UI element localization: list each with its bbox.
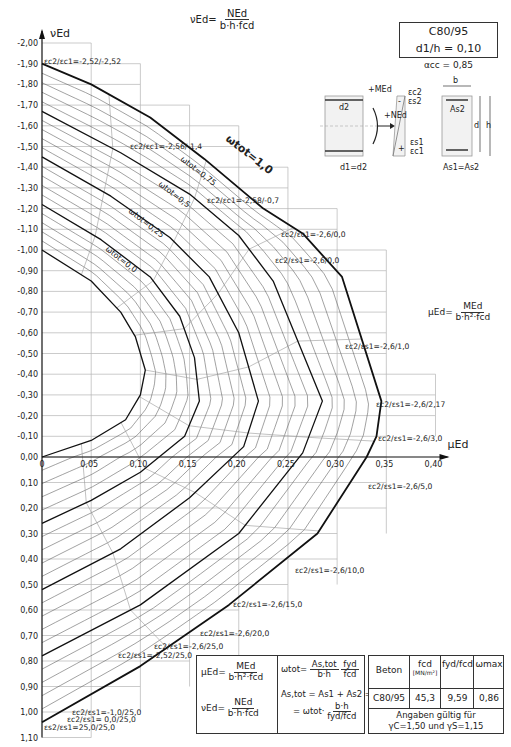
legend-astot-frac: b·hfyd/fcd: [327, 702, 356, 722]
svg-text:0,30: 0,30: [20, 530, 38, 539]
legend-mu: μEd= MEdb·h²·fcd: [201, 662, 263, 683]
svg-text:-0,20: -0,20: [17, 412, 38, 421]
svg-text:-1,80: -1,80: [17, 80, 38, 89]
svg-text:-1,40: -1,40: [17, 163, 38, 172]
svg-text:μEd: μEd: [448, 438, 469, 451]
th-fcd-label: fcd: [410, 659, 440, 669]
svg-text:0: 0: [39, 460, 44, 469]
svg-text:ωtot=0,0: ωtot=0,0: [104, 244, 139, 274]
svg-text:-0,50: -0,50: [17, 350, 38, 359]
legend-nu-den: b·h·fcd: [228, 709, 259, 719]
svg-text:εc2/εs1=-2,6/5,0: εc2/εs1=-2,6/5,0: [368, 482, 433, 491]
svg-text:h: h: [486, 121, 491, 130]
svg-text:-0,10: -0,10: [17, 432, 38, 441]
svg-text:+MEd: +MEd: [368, 85, 392, 94]
legend-omega-den2: fcd: [343, 670, 356, 679]
mu-lhs: μEd=: [428, 307, 453, 317]
svg-text:+: +: [398, 144, 405, 153]
svg-text:εc2/εc1=-2,6/0,0: εc2/εc1=-2,6/0,0: [281, 230, 346, 239]
svg-text:0,70: 0,70: [20, 632, 38, 641]
svg-text:0,60: 0,60: [20, 606, 38, 615]
svg-text:-2,00: -2,00: [17, 39, 38, 48]
formula-legend-box: μEd= MEdb·h²·fcd νEd= NEdb·h·fcd ωtot= A…: [196, 655, 365, 734]
svg-text:-0,40: -0,40: [17, 370, 38, 379]
svg-text:b: b: [453, 76, 458, 85]
svg-text:εc2: εc2: [408, 88, 422, 97]
svg-text:0,50: 0,50: [20, 581, 38, 590]
svg-text:0,40: 0,40: [425, 460, 443, 469]
svg-text:-0,60: -0,60: [17, 329, 38, 338]
mu-fraction: MEd b·h²·fcd: [456, 302, 491, 323]
legend-astot: As,tot = As1 + As2 =: [281, 689, 372, 699]
svg-text:-0,90: -0,90: [17, 267, 38, 276]
svg-text:As1=As2: As1=As2: [443, 163, 479, 172]
legend-mu-den: b·h²·fcd: [229, 673, 264, 683]
svg-text:-1,90: -1,90: [17, 60, 38, 69]
svg-text:-1,20: -1,20: [17, 205, 38, 214]
legend-nu-frac: NEdb·h·fcd: [228, 698, 259, 719]
svg-text:εs2/εs1=25,0/25,0: εs2/εs1=25,0/25,0: [44, 723, 115, 732]
svg-text:εc2/εs1=-2,6/15,0: εc2/εs1=-2,6/15,0: [233, 600, 302, 609]
svg-text:-1,10: -1,10: [17, 225, 38, 234]
svg-text:0,10: 0,10: [129, 460, 147, 469]
ratio-box: d1/h = 0,10: [399, 40, 498, 58]
svg-text:-1,00: -1,00: [17, 246, 38, 255]
mu-den: b·h²·fcd: [456, 313, 491, 323]
svg-text:-1,60: -1,60: [17, 122, 38, 131]
svg-text:εc2/εs1=-2,6/20,0: εc2/εs1=-2,6/20,0: [200, 629, 269, 638]
nu-num: NEd: [225, 8, 249, 20]
curve-omega-3: [42, 111, 322, 656]
nu-fraction: NEd b·h·fcd: [220, 8, 254, 31]
svg-text:+NEd: +NEd: [384, 111, 407, 120]
table-header-row: Beton fcd [MN/m²] fyd/fcd ωmax: [369, 656, 503, 689]
svg-text:d2: d2: [339, 103, 349, 112]
svg-text:As2: As2: [450, 105, 465, 114]
svg-text:0,80: 0,80: [20, 657, 38, 666]
legend-left: μEd= MEdb·h²·fcd νEd= NEdb·h·fcd: [197, 656, 278, 733]
nu-formula-top: νEd= NEd b·h·fcd: [190, 8, 254, 31]
svg-text:-: -: [398, 97, 401, 106]
concrete-class-box: C80/95: [399, 22, 498, 41]
svg-text:-0,80: -0,80: [17, 287, 38, 296]
legend-astot-rhs-lhs: = ωtot·: [293, 706, 325, 716]
legend-nu-lhs: νEd=: [201, 703, 225, 713]
legend-mu-frac: MEdb·h²·fcd: [229, 662, 264, 683]
svg-text:εc2/εs1=-2,6/25,0: εc2/εs1=-2,6/25,0: [154, 642, 223, 651]
svg-text:-1,30: -1,30: [17, 184, 38, 193]
svg-text:0,90: 0,90: [20, 683, 38, 692]
svg-text:ωtot=0,5: ωtot=0,5: [157, 179, 192, 209]
svg-text:0,00: 0,00: [20, 453, 38, 462]
svg-text:εc2/εs1=-2,6/10,0: εc2/εs1=-2,6/10,0: [295, 566, 364, 575]
legend-astot-rhs: = ωtot· b·hfyd/fcd: [293, 702, 356, 722]
svg-text:0,10: 0,10: [20, 479, 38, 488]
legend-omega: ωtot= As,totb·h fydfcd: [281, 660, 359, 680]
svg-text:εc2/εc1=-2,58/-0,7: εc2/εc1=-2,58/-0,7: [207, 196, 279, 205]
svg-text:-1,70: -1,70: [17, 101, 38, 110]
svg-text:εs1: εs1: [410, 138, 424, 147]
svg-text:εc2/εc1=-2,52/-2,52: εc2/εc1=-2,52/-2,52: [44, 57, 121, 66]
strain-lines: [42, 73, 374, 709]
svg-text:d: d: [474, 121, 479, 130]
table-row: C80/95 45,3 9,59 0,86: [369, 688, 503, 709]
th-beton: Beton: [369, 665, 409, 675]
svg-text:0,15: 0,15: [179, 460, 197, 469]
legend-mu-lhs: μEd=: [201, 667, 226, 677]
table-footer-1: Angaben gültig für: [369, 710, 503, 720]
interaction-chart: νEdμEd -2,00-1,90-1,80-1,70-1,60-1,50-1,…: [0, 0, 511, 747]
material-table: Beton fcd [MN/m²] fyd/fcd ωmax C80/95 45…: [368, 655, 504, 734]
td-fyd-fcd: 9,59: [440, 688, 474, 708]
legend-omega-lhs: ωtot=: [281, 664, 307, 674]
td-class: C80/95: [369, 688, 409, 708]
nu-lhs: νEd=: [190, 14, 217, 25]
svg-text:1,00: 1,00: [20, 708, 38, 717]
svg-text:1,10: 1,10: [20, 734, 38, 743]
td-omega-max: 0,86: [473, 688, 504, 708]
legend-omega-den1: b·h: [317, 670, 331, 679]
svg-text:-1,50: -1,50: [17, 143, 38, 152]
th-fcd-unit: [MN/m²]: [410, 669, 440, 676]
th-fyd-fcd: fyd/fcd: [440, 656, 474, 688]
svg-text:εs2: εs2: [408, 97, 422, 106]
svg-text:ωtot=0,25: ωtot=0,25: [127, 206, 166, 239]
svg-text:εc2/εs1=-2,6/2,17: εc2/εs1=-2,6/2,17: [376, 400, 445, 409]
svg-text:εc2/εs1=-2,6/1,0: εc2/εs1=-2,6/1,0: [345, 342, 410, 351]
